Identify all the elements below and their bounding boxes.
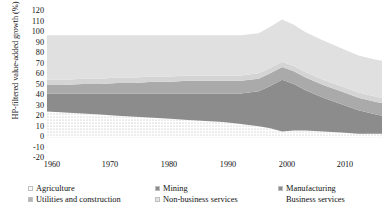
x-tick-1980: 1980 xyxy=(161,160,177,169)
y-tick-100: 100 xyxy=(32,28,44,36)
legend-label-agriculture: Agriculture xyxy=(36,184,75,194)
legend-swatch-non-business-services xyxy=(155,197,160,202)
y-tick-0: 0 xyxy=(40,133,44,141)
legend-item-mining[interactable]: Mining xyxy=(155,184,278,194)
x-tick-1960: 1960 xyxy=(44,160,60,169)
legend-item-manufacturing[interactable]: Manufacturing xyxy=(278,184,378,194)
legend-label-manufacturing: Manufacturing xyxy=(286,184,336,194)
legend-item-non-business-services[interactable]: Non-business services xyxy=(155,195,278,205)
y-tick-neg20: -20 xyxy=(33,154,44,162)
legend-item-business-services[interactable]: Business services xyxy=(278,195,378,205)
y-tick-neg10: -10 xyxy=(33,144,44,152)
y-tick-10: 10 xyxy=(36,123,44,131)
y-tick-30: 30 xyxy=(36,102,44,110)
x-axis-tick-labels: 1960 1970 1980 1990 2000 2010 xyxy=(47,160,382,174)
area-bands xyxy=(47,19,382,137)
legend-label-utilities-and-construction: Utilities and construction xyxy=(36,195,121,205)
legend-label-business-services: Business services xyxy=(286,195,345,205)
y-tick-40: 40 xyxy=(36,91,44,99)
legend-swatch-mining xyxy=(155,186,160,191)
chart-legend: Agriculture Mining Manufacturing Utiliti… xyxy=(28,183,378,205)
y-tick-20: 20 xyxy=(36,112,44,120)
legend-item-agriculture[interactable]: Agriculture xyxy=(28,184,155,194)
legend-swatch-utilities-and-construction xyxy=(28,197,33,202)
legend-swatch-business-services xyxy=(278,197,283,202)
y-axis-tick-labels: 120 110 100 90 80 70 60 50 40 30 20 10 0… xyxy=(14,7,44,159)
legend-label-mining: Mining xyxy=(163,184,188,194)
area-chart-figure: HP-filtered value-added growth (%) 120 1… xyxy=(0,0,389,215)
plot-area xyxy=(47,11,382,159)
y-tick-120: 120 xyxy=(32,7,44,15)
y-tick-50: 50 xyxy=(36,81,44,89)
legend-swatch-agriculture xyxy=(28,186,33,191)
y-tick-80: 80 xyxy=(36,49,44,57)
legend-label-non-business-services: Non-business services xyxy=(163,195,238,205)
x-tick-2000: 2000 xyxy=(279,160,295,169)
x-tick-2010: 2010 xyxy=(337,160,353,169)
x-tick-1990: 1990 xyxy=(220,160,236,169)
stacked-area-plot xyxy=(47,11,382,159)
y-tick-70: 70 xyxy=(36,60,44,68)
y-tick-90: 90 xyxy=(36,39,44,47)
y-tick-60: 60 xyxy=(36,70,44,78)
legend-swatch-manufacturing xyxy=(278,186,283,191)
x-tick-1970: 1970 xyxy=(102,160,118,169)
legend-item-utilities-and-construction[interactable]: Utilities and construction xyxy=(28,195,155,205)
y-tick-110: 110 xyxy=(32,18,44,26)
